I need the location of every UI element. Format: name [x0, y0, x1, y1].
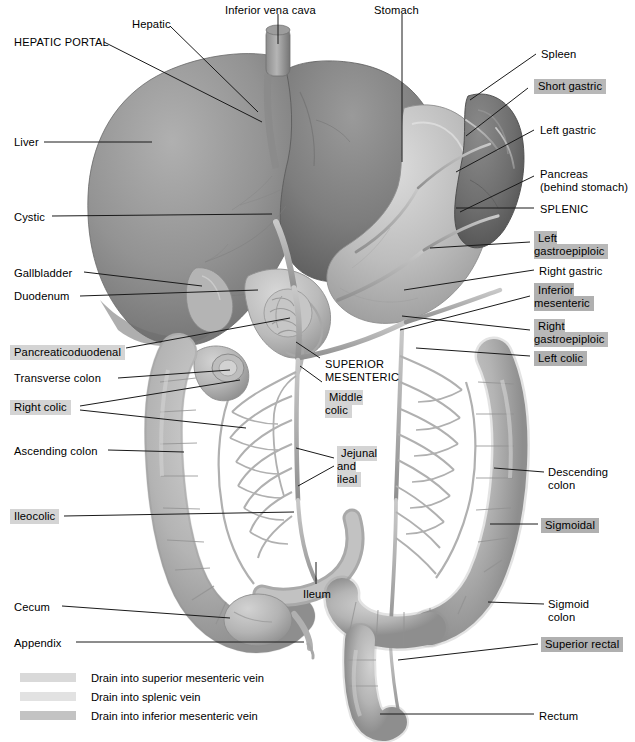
label-liver: Liver: [14, 136, 39, 149]
vessel-mesenteric-arcade-right: [219, 372, 296, 584]
legend-item: Drain into inferior mesenteric vein: [20, 706, 264, 725]
label-middle-colic: Middle colic: [325, 391, 363, 417]
legend: Drain into superior mesenteric vein Drai…: [20, 668, 264, 725]
label-text-left-gastroepiploic: Left gastroepiploic: [534, 231, 608, 259]
label-text-left-colic: Left colic: [534, 351, 587, 366]
label-gallbladder: Gallbladder: [14, 267, 72, 280]
label-hepatic-portal: HEPATIC PORTAL: [14, 36, 109, 49]
label-left-gastric: Left gastric: [540, 124, 596, 137]
legend-swatch-smv: [20, 673, 76, 682]
label-jejunal-and-ileal: Jejunal and ileal: [337, 447, 377, 487]
label-pancreaticoduodenal: Pancreaticoduodenal: [10, 346, 125, 359]
organ-rectum: [348, 640, 392, 726]
legend-label-imv: Drain into inferior mesenteric vein: [91, 710, 258, 722]
label-duodenum: Duodenum: [14, 290, 70, 303]
legend-label-smv: Drain into superior mesenteric vein: [91, 672, 264, 684]
label-inferior-vena-cava: Inferior vena cava: [225, 4, 316, 17]
anatomy-illustration: [0, 0, 635, 742]
organ-spleen: [455, 94, 524, 248]
organ-duodenum: [245, 269, 331, 376]
label-pancreas: Pancreas (behind stomach): [540, 168, 628, 194]
legend-swatch-imv: [20, 711, 76, 720]
label-superior-rectal: Superior rectal: [541, 638, 623, 651]
label-text-ileocolic: Ileocolic: [10, 509, 59, 524]
legend-swatch-splenic: [20, 692, 76, 701]
label-text-sigmoidal: Sigmoidal: [541, 518, 599, 533]
label-cystic: Cystic: [14, 211, 45, 224]
label-cecum: Cecum: [14, 601, 50, 614]
legend-item: Drain into splenic vein: [20, 687, 264, 706]
label-text-pancreaticoduodenal: Pancreaticoduodenal: [10, 345, 125, 360]
label-spleen: Spleen: [541, 48, 576, 61]
label-ileum: Ileum: [303, 588, 331, 601]
organ-cecum: [224, 594, 292, 646]
label-text-short-gastric: Short gastric: [534, 79, 606, 94]
label-superior-mesenteric: SUPERIOR MESENTERIC: [325, 358, 399, 384]
label-splenic: SPLENIC: [540, 203, 588, 216]
label-ascending-colon: Ascending colon: [14, 445, 98, 458]
legend-item: Drain into superior mesenteric vein: [20, 668, 264, 687]
label-left-colic: Left colic: [534, 352, 587, 365]
label-transverse-colon: Transverse colon: [14, 372, 101, 385]
label-sigmoidal: Sigmoidal: [541, 519, 599, 532]
label-text-inferior-mesenteric: Inferior mesenteric: [534, 283, 594, 311]
vessel-mesenteric-arcade-left: [396, 356, 475, 578]
label-right-colic: Right colic: [10, 401, 71, 414]
label-text-right-colic: Right colic: [10, 400, 71, 415]
label-stomach: Stomach: [374, 4, 419, 17]
label-text-right-gastroepiploic: Right gastroepiploic: [534, 319, 608, 347]
label-hepatic: Hepatic: [132, 18, 171, 31]
label-appendix: Appendix: [14, 637, 61, 650]
organ-transverse-colon: [194, 346, 249, 401]
label-ileocolic: Ileocolic: [10, 510, 59, 523]
label-text-middle-colic: Middle colic: [325, 390, 363, 418]
label-right-gastroepiploic: Right gastroepiploic: [534, 320, 608, 346]
label-descending-colon: Descending colon: [548, 466, 608, 492]
diagram-page: HEPATIC PORTALHepaticInferior vena cavaS…: [0, 0, 635, 742]
label-left-gastroepiploic: Left gastroepiploic: [534, 232, 608, 258]
label-text-jejunal-and-ileal: Jejunal and ileal: [337, 446, 377, 487]
label-short-gastric: Short gastric: [534, 80, 606, 93]
legend-label-splenic: Drain into splenic vein: [91, 691, 200, 703]
label-inferior-mesenteric: Inferior mesenteric: [534, 284, 594, 310]
label-rectum: Rectum: [539, 710, 578, 723]
label-right-gastric: Right gastric: [539, 265, 602, 278]
label-text-superior-rectal: Superior rectal: [541, 637, 623, 652]
label-sigmoid-colon: Sigmoid colon: [548, 598, 589, 624]
